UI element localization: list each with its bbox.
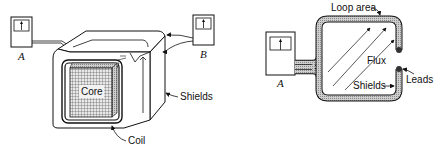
meter-b — [193, 15, 214, 45]
meter-a-label: A — [17, 50, 25, 62]
flux-label: Flux — [367, 55, 386, 66]
shields-label-left: Shields — [180, 91, 213, 102]
loop-area-label: Loop area — [331, 2, 376, 13]
diagram-canvas: A — [0, 0, 439, 156]
lead-end-bottom — [396, 66, 402, 72]
right-panel: A Flux Loop area S — [266, 2, 433, 98]
flux-arrow — [328, 28, 370, 72]
shields-label-right: Shields — [353, 80, 386, 91]
lead-wire-b — [167, 35, 193, 38]
core: Core — [70, 63, 119, 117]
meter-a-right — [266, 32, 295, 75]
leads-label: Leads — [406, 74, 433, 85]
meter-a — [11, 17, 32, 47]
lead-end-top — [396, 47, 402, 53]
meter-a-right-label: A — [276, 77, 284, 89]
coil-label: Coil — [128, 135, 145, 146]
left-panel: A — [11, 15, 214, 146]
core-label: Core — [81, 86, 103, 97]
shields-pointer-arrow — [166, 93, 178, 97]
meter-b-label: B — [200, 48, 207, 60]
